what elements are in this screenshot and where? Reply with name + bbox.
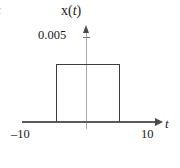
signal-plot-figure: c x(t) 0.005 –10 10 t [0, 0, 180, 168]
x-axis-max-tick-label: 10 [141, 128, 154, 141]
x-axis-name-label: t [165, 117, 169, 130]
vertical-axis-arrowhead-icon [83, 25, 89, 33]
amplitude-value-label: 0.005 [38, 29, 66, 42]
function-label: x(t) [61, 4, 81, 18]
x-axis-min-tick-label: –10 [11, 128, 30, 141]
rectangular-pulse-waveform [56, 64, 120, 122]
function-label-name: x [61, 3, 68, 18]
amplitude-tick-mark [83, 37, 90, 38]
horizontal-axis-arrowhead-icon [155, 118, 163, 126]
function-label-paren-close: ) [77, 3, 82, 18]
figure-edge-label: c [0, 4, 1, 16]
